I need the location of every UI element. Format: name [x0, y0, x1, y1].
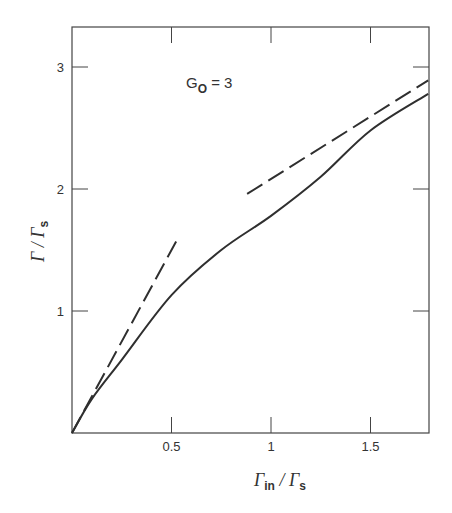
y-axis-label: Γ / Γs — [28, 221, 51, 263]
solid-curve — [72, 94, 428, 433]
chart: 0.511.5123 GO = 3 Γin / Γs Γ / Γs — [0, 0, 452, 513]
dashed-asymptote — [72, 235, 179, 433]
y-tick-label: 3 — [57, 60, 64, 75]
x-tick-label: 1.5 — [361, 439, 379, 454]
gain-annotation: GO = 3 — [186, 74, 232, 96]
y-tick-label: 1 — [57, 304, 64, 319]
x-tick-label: 1 — [267, 439, 274, 454]
y-tick-label: 2 — [57, 182, 64, 197]
data-series — [72, 80, 428, 433]
x-tick-label: 0.5 — [162, 439, 180, 454]
x-axis-label: Γin / Γs — [253, 470, 306, 493]
dashed-asymptote — [247, 80, 428, 193]
axis-ticks: 0.511.5123 — [57, 27, 429, 454]
